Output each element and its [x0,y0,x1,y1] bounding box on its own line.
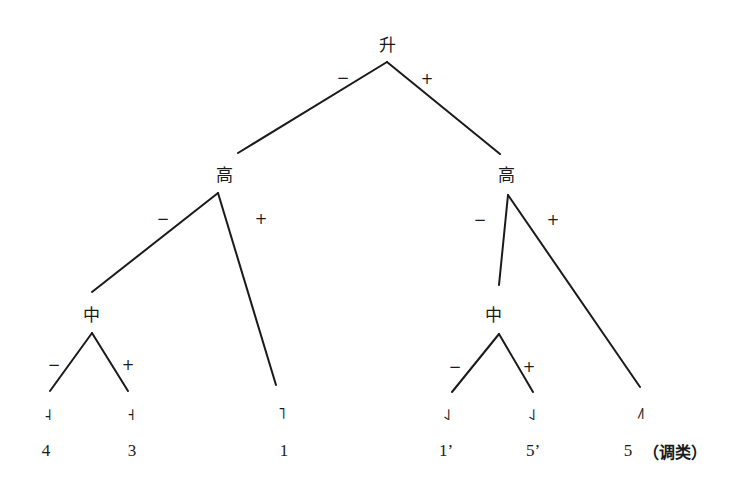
lhigh-minus-sign: − [157,210,170,228]
leaf-value-1-prime: 1’ [439,441,453,461]
lhigh-plus-sign: + [255,210,268,228]
rhigh-minus-sign: − [474,211,487,229]
leaf-value-1: 1 [280,441,289,461]
tone-letter-3: ˧ [127,405,135,424]
edge-root-right [387,62,500,154]
rmid-plus-sign: + [523,358,536,376]
edge-lhigh-left [92,193,218,292]
lmid-minus-sign: − [48,356,61,374]
left-high-node-label: 高 [216,161,233,186]
leaf-value-5: 5 [624,441,633,461]
tone-letter-1-prime: ˨˩ [443,405,451,424]
leaf-value-4: 4 [42,441,51,461]
rhigh-plus-sign: + [547,211,560,229]
right-high-node-label: 高 [498,161,515,186]
edge-rhigh-left [499,195,508,285]
tone-letter-4: ˨ [44,405,52,424]
root-plus-sign: + [421,70,434,88]
tone-letter-1: ˥ [278,404,286,423]
leaf-value-5-prime: 5’ [526,441,540,461]
root-node-label: 升 [379,31,396,56]
edge-root-left [238,62,387,153]
left-mid-node-label: 中 [83,301,100,326]
rmid-minus-sign: − [449,358,462,376]
root-minus-sign: − [337,69,350,87]
leaf-value-3: 3 [128,441,137,461]
tone-category-label: （调类） [643,439,707,463]
lmid-plus-sign: + [122,356,135,374]
tree-edges [0,0,748,498]
tone-letter-5: ˩˥ [637,404,645,423]
right-mid-node-label: 中 [485,301,502,326]
edge-lhigh-right [218,193,276,385]
tone-letter-5-prime: ˨˩ [528,405,536,424]
